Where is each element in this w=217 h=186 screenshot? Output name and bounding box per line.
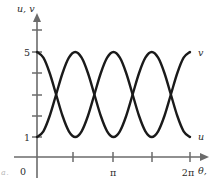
- graph-svg: u, v θ, 0 π 2π 5 1 v u: [0, 0, 217, 186]
- y-axis-label: u, v: [17, 3, 35, 14]
- curve-u: [37, 52, 190, 137]
- figure-graph-u-v-theta: u, v θ, 0 π 2π 5 1 v u: [0, 0, 217, 186]
- x-tick-label-two-pi: 2π: [182, 167, 194, 178]
- curve-v: [37, 52, 190, 137]
- y-tick-label-5: 5: [24, 47, 30, 58]
- y-tick-label-1: 1: [24, 132, 30, 143]
- y-axis-arrowhead: [33, 13, 41, 22]
- y-axis: [32, 13, 42, 178]
- curve-label-u: u: [198, 131, 204, 142]
- x-axis-arrowhead: [200, 153, 209, 161]
- curve-label-v: v: [198, 47, 204, 58]
- x-axis-label: θ,: [198, 165, 207, 176]
- x-axis: [14, 152, 209, 162]
- caption-fragment: a.: [1, 168, 9, 177]
- x-tick-label-0: 0: [20, 166, 26, 177]
- x-tick-label-pi: π: [110, 167, 116, 178]
